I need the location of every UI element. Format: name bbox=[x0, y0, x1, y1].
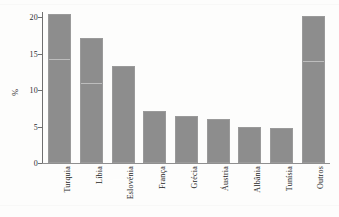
x-axis-label: Outros bbox=[316, 166, 325, 189]
bars-group bbox=[42, 10, 327, 163]
x-axis-line bbox=[42, 163, 330, 164]
bar-chart: % 05101520 TurquiaLíbiaEslovéniaFrançaGr… bbox=[0, 0, 339, 217]
y-tick-label: 15 bbox=[30, 49, 38, 58]
scan-artifact bbox=[0, 4, 339, 5]
x-axis-label: Áustria bbox=[221, 166, 230, 191]
bar bbox=[143, 111, 166, 163]
bar bbox=[112, 66, 135, 163]
y-tick-label: 20 bbox=[30, 13, 38, 22]
x-axis-label: Eslovénia bbox=[126, 166, 135, 199]
bar bbox=[175, 116, 198, 163]
y-tick-label: 5 bbox=[34, 122, 38, 131]
y-tick-mark bbox=[38, 163, 42, 164]
x-axis-label: Líbia bbox=[95, 166, 104, 184]
x-axis-label: Grécia bbox=[190, 166, 199, 189]
y-tick-label: 0 bbox=[34, 159, 38, 168]
bar bbox=[207, 119, 230, 163]
x-axis-label: França bbox=[158, 166, 167, 189]
bar bbox=[48, 14, 71, 163]
bar bbox=[302, 16, 325, 163]
y-tick-label: 10 bbox=[30, 86, 38, 95]
plot-area: 05101520 bbox=[42, 10, 327, 163]
x-axis-labels: TurquiaLíbiaEslovéniaFrançaGréciaÁustria… bbox=[42, 166, 327, 216]
bar bbox=[80, 38, 103, 163]
x-axis-label: Turquia bbox=[63, 166, 72, 192]
x-axis-label: Albânia bbox=[253, 166, 262, 193]
bar bbox=[238, 127, 261, 163]
x-axis-label: Tunísia bbox=[285, 166, 294, 191]
bar bbox=[270, 128, 293, 163]
y-axis-title: % bbox=[11, 89, 20, 96]
